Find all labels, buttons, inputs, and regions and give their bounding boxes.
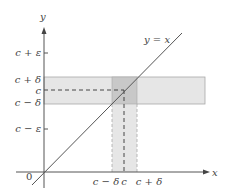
x-axis-label: x	[212, 167, 218, 178]
x-tick-label-c-minus-delta: c − δ	[93, 176, 119, 187]
y-tick-label-c-minus-epsilon: c − ε	[15, 123, 41, 134]
line-label: y = x	[143, 34, 170, 45]
y-tick-label-c-plus-delta: c + δ	[15, 74, 41, 85]
line-y-equals-x	[32, 33, 182, 185]
y-tick-label-c-plus-epsilon: c + ε	[15, 47, 41, 58]
y-tick-label-c-minus-delta: c − δ	[15, 97, 41, 108]
origin-label: 0	[26, 171, 32, 182]
diagram-canvas: y x 0 y = x c + ε c + δ c c − δ c − ε c …	[0, 0, 225, 194]
y-axis-arrow-icon	[42, 27, 47, 34]
x-tick-label-c: c	[121, 176, 127, 187]
y-tick-label-c: c	[35, 85, 41, 96]
y-axis-label: y	[39, 11, 46, 22]
epsilon-delta-diagram: y x 0 y = x c + ε c + δ c c − δ c − ε c …	[0, 0, 225, 194]
x-axis-arrow-icon	[203, 170, 210, 175]
x-tick-label-c-plus-delta: c + δ	[136, 176, 162, 187]
